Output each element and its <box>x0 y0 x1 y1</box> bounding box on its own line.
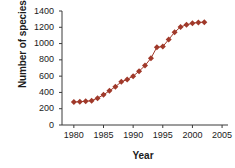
data-point-marker <box>106 88 112 94</box>
data-point-marker <box>89 98 95 104</box>
data-point-marker <box>124 76 130 82</box>
plot-area <box>0 0 235 168</box>
data-point-marker <box>71 99 77 105</box>
series-line <box>74 22 204 102</box>
data-series <box>71 19 207 105</box>
data-point-marker <box>95 95 101 101</box>
data-point-marker <box>154 44 160 50</box>
axes <box>59 11 228 128</box>
data-point-marker <box>83 98 89 104</box>
data-point-marker <box>195 19 201 25</box>
data-point-marker <box>189 20 195 26</box>
data-point-marker <box>201 19 207 25</box>
data-point-marker <box>77 99 83 105</box>
data-point-marker <box>184 22 190 28</box>
data-point-marker <box>101 92 107 98</box>
chart-container: Number of species on list Year 020040060… <box>0 0 235 168</box>
